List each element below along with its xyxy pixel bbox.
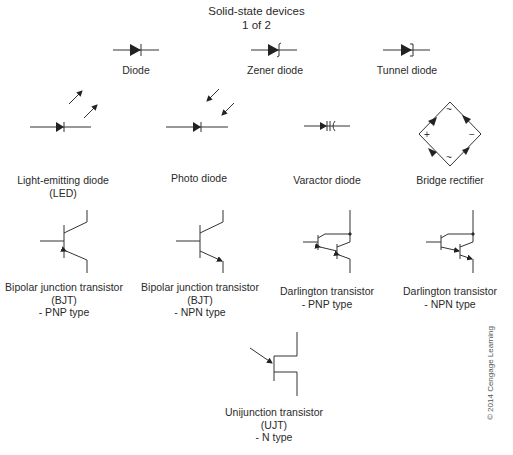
label-darlington-npn: Darlington transistor- NPN type [403, 285, 497, 310]
led-icon [30, 91, 97, 132]
label-diode: Diode [122, 64, 149, 77]
tunnel-diode-icon [383, 44, 430, 56]
label-zener-diode: Zener diode [247, 64, 303, 77]
darlington-npn-icon [426, 210, 474, 273]
diode-icon [113, 44, 159, 56]
label-tunnel-diode: Tunnel diode [377, 64, 437, 77]
bridge-plus-mark: + [424, 129, 430, 140]
label-bjt-pnp: Bipolar junction transistor(BJT)- PNP ty… [5, 281, 123, 319]
label-varactor-diode: Varactor diode [293, 174, 361, 187]
photo-diode-icon [166, 89, 234, 132]
bjt-npn-icon [176, 210, 223, 273]
label-photo-diode: Photo diode [171, 172, 227, 185]
copyright-notice: © 2014 Cengage Learning [486, 326, 495, 420]
bjt-pnp-icon [40, 210, 87, 273]
label-ujt: Unijunction transistor(UJT)- N type [225, 406, 323, 444]
darlington-pnp-icon [303, 210, 351, 273]
zener-diode-icon [251, 43, 297, 57]
bridge-ac-mark-bottom: ~ [446, 152, 452, 163]
bridge-minus-mark: − [469, 129, 475, 140]
label-bjt-npn: Bipolar junction transistor(BJT)- NPN ty… [141, 281, 259, 319]
bridge-ac-mark-top: ~ [446, 104, 452, 115]
label-bridge-rectifier: Bridge rectifier [416, 174, 484, 187]
ujt-icon [250, 332, 297, 396]
varactor-diode-icon [304, 121, 350, 131]
label-led: Light-emitting diode(LED) [17, 174, 109, 199]
label-darlington-pnp: Darlington transistor- PNP type [280, 285, 374, 310]
